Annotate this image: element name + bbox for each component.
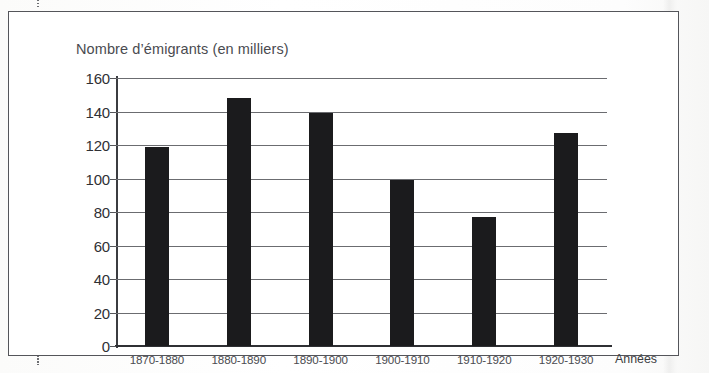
y-axis-tick-mark [110, 145, 116, 146]
y-axis-tick-label: 120 [66, 137, 110, 154]
bar [390, 180, 414, 346]
x-axis-tick-label: 1900-1910 [375, 353, 430, 366]
x-axis-title: Années [615, 352, 657, 366]
y-axis-tick-mark [110, 78, 116, 79]
y-axis-tick-label: 20 [66, 304, 110, 321]
y-axis-tick-label: 40 [66, 271, 110, 288]
bar [554, 133, 578, 346]
y-axis-tick-label: 160 [66, 70, 110, 87]
y-axis-tick-mark [110, 112, 116, 113]
gridline [116, 112, 607, 113]
y-axis-tick-label: 60 [66, 237, 110, 254]
y-axis-tick-label: 100 [66, 170, 110, 187]
bar [309, 113, 333, 346]
y-axis-tick-label: 0 [66, 338, 110, 355]
y-axis-tick-mark [110, 212, 116, 213]
y-axis-tick-label: 140 [66, 103, 110, 120]
gridline [116, 313, 607, 314]
x-axis-tick-label: 1870-1880 [130, 353, 185, 366]
y-axis-tick-mark [110, 246, 116, 247]
chart-title: Nombre d’émigrants (en milliers) [76, 41, 289, 57]
bar [472, 217, 496, 346]
chart-frame: Nombre d’émigrants (en milliers) 0204060… [8, 11, 679, 356]
gridline [116, 145, 607, 146]
gridline [116, 78, 607, 79]
plot-area [116, 78, 607, 346]
y-axis-tick-labels: 020406080100120140160 [64, 78, 110, 346]
gridline [116, 212, 607, 213]
y-axis-tick-mark [110, 279, 116, 280]
gridline [116, 279, 607, 280]
x-axis-tick-label: 1910-1920 [457, 353, 512, 366]
gridline [116, 179, 607, 180]
bar [227, 98, 251, 346]
bar [145, 147, 169, 346]
x-axis-tick-label: 1920-1930 [539, 353, 594, 366]
y-axis-tick-mark [110, 179, 116, 180]
x-axis-tick-label: 1890-1900 [293, 353, 348, 366]
gridline [116, 246, 607, 247]
y-axis-tick-mark [110, 313, 116, 314]
registration-tick-top-icon [37, 0, 39, 9]
x-axis-tick-label: 1880-1890 [211, 353, 266, 366]
y-axis-tick-label: 80 [66, 204, 110, 221]
y-axis-tick-mark [110, 346, 116, 347]
